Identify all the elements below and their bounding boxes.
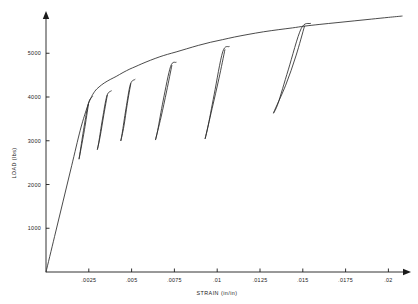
y-tick-label-2000: 2000 [28, 182, 41, 188]
curve-unload-reload-loop-6 [273, 24, 310, 114]
y-tick-label-5000: 5000 [28, 50, 41, 56]
x-tick-label-0025: .0025 [81, 277, 96, 283]
x-tick-labels: .0025 .005 .0075 .01 .0125 .015 .0175 .0… [81, 277, 392, 283]
curve-layer [46, 16, 402, 272]
y-tick-label-3000: 3000 [28, 138, 41, 144]
x-tick-label-0175: .0175 [338, 277, 353, 283]
curve-unload-reload-loop-4 [155, 62, 176, 140]
x-axis [46, 269, 411, 275]
x-tick-label-005: .005 [126, 277, 138, 283]
chart-figure: 1000 2000 3000 4000 5000 .0025 .005 .007… [0, 0, 418, 304]
x-tick-label-0075: .0075 [167, 277, 182, 283]
x-tick-label-0125: .0125 [253, 277, 268, 283]
y-axis [43, 11, 49, 272]
y-axis-arrow-icon [43, 11, 49, 19]
x-axis-arrow-icon [403, 269, 411, 275]
y-tick-label-1000: 1000 [28, 225, 41, 231]
y-tick-label-4000: 4000 [28, 94, 41, 100]
curve-unload-reload-loop-2 [97, 91, 111, 150]
y-tick-marks [46, 53, 50, 228]
x-axis-title: STRAIN (in/in) [196, 290, 237, 296]
x-tick-marks [89, 269, 389, 273]
load-strain-plot: 1000 2000 3000 4000 5000 .0025 .005 .007… [0, 0, 418, 304]
curve-unload-reload-loop-3 [121, 80, 135, 141]
x-tick-label-02: .02 [384, 277, 392, 283]
x-tick-label-01: .01 [213, 277, 221, 283]
x-tick-label-015: .015 [297, 277, 309, 283]
y-tick-labels: 1000 2000 3000 4000 5000 [28, 50, 41, 231]
curve-unload-reload-loop-5 [205, 47, 229, 139]
y-axis-title: LOAD (lbs) [11, 147, 17, 178]
